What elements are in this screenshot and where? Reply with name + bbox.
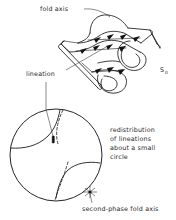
bedding-symbol-label: S	[160, 66, 164, 74]
second-phase-fold-axis-label: second-phase fold axis	[82, 205, 159, 213]
caption-line-4: circle	[110, 153, 128, 161]
bedding-subscript-label: 0	[165, 70, 168, 75]
lineation-point-marker	[52, 136, 54, 143]
fold-axis-label: fold axis	[40, 5, 69, 13]
caption-line-1: redistribution	[110, 126, 155, 134]
figure-background	[0, 0, 176, 220]
caption-line-3: about a small	[110, 144, 155, 152]
figure-root: fold axis lineation S 0 redistribution o…	[0, 0, 176, 220]
caption-line-2: of lineations	[110, 135, 152, 143]
lineation-label: lineation	[26, 70, 55, 78]
